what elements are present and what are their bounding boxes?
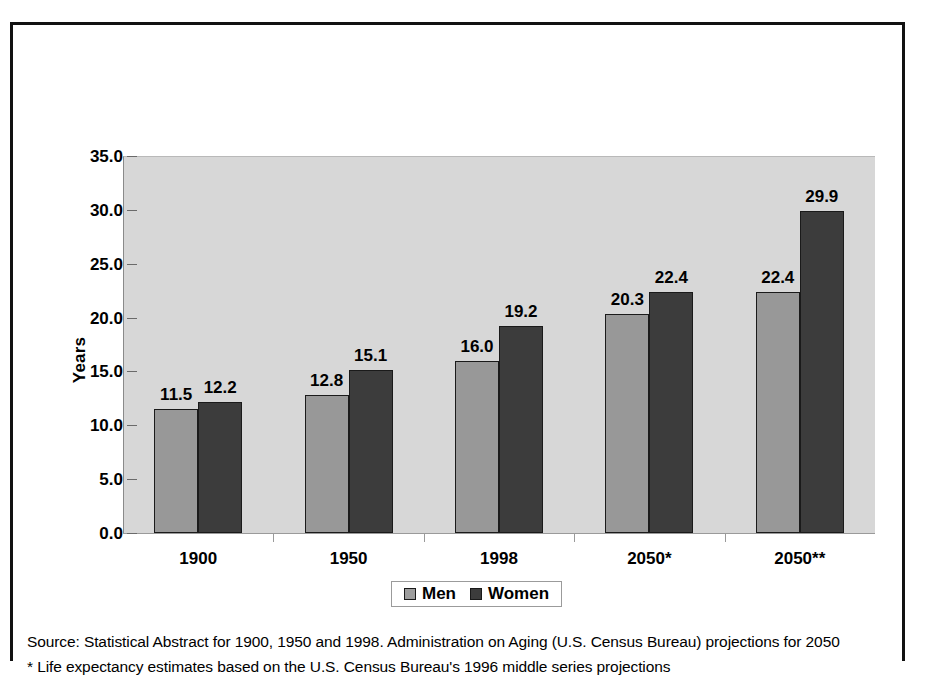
x-axis-label: 2050* — [574, 549, 724, 569]
bar-value-label: 22.4 — [643, 269, 699, 286]
chart-legend: Men Women — [391, 581, 562, 607]
y-tick-mark — [127, 533, 137, 534]
x-tick-mark — [424, 533, 425, 542]
bar-value-label: 19.2 — [493, 303, 549, 320]
bar-group: 11.512.2 — [123, 156, 273, 533]
bar-men-2050star — [605, 314, 649, 533]
x-axis-label: 2050** — [725, 549, 875, 569]
y-tick-label: 35.0 — [45, 148, 123, 165]
legend-item-men: Men — [404, 585, 456, 602]
y-tick-label: 25.0 — [45, 255, 123, 272]
bar-value-label: 16.0 — [449, 338, 505, 355]
x-tick-mark — [273, 533, 274, 542]
bar-women-2050starstar — [800, 211, 844, 533]
bar-men-2050starstar — [756, 292, 800, 533]
x-axis-labels: 1900195019982050*2050** — [123, 549, 875, 575]
bar-men-1998 — [455, 361, 499, 533]
footnote-source: Source: Statistical Abstract for 1900, 1… — [27, 629, 907, 654]
bar-chart: Years 0.05.010.015.020.025.030.035.0 11.… — [13, 25, 908, 603]
bar-value-label: 15.1 — [343, 347, 399, 364]
x-axis-line — [123, 533, 875, 534]
footnote-star: * Life expectancy estimates based on the… — [27, 654, 907, 679]
bar-men-1900 — [154, 409, 198, 533]
bars-layer: 11.512.212.815.116.019.220.322.422.429.9 — [123, 156, 875, 533]
y-tick-label: 15.0 — [45, 363, 123, 380]
bar-women-1900 — [198, 402, 242, 533]
bar-group: 12.815.1 — [273, 156, 423, 533]
bar-value-label: 29.9 — [794, 188, 850, 205]
bar-value-label: 20.3 — [599, 291, 655, 308]
x-tick-mark — [574, 533, 575, 542]
bar-value-label: 12.8 — [299, 372, 355, 389]
footnotes: Source: Statistical Abstract for 1900, 1… — [27, 629, 907, 679]
x-axis-label: 1950 — [273, 549, 423, 569]
legend-label-women: Women — [488, 585, 549, 602]
y-tick-label: 30.0 — [45, 201, 123, 218]
legend-swatch-men-icon — [404, 588, 416, 600]
legend-swatch-women-icon — [470, 588, 482, 600]
bar-women-1998 — [499, 326, 543, 533]
bar-value-label: 12.2 — [192, 379, 248, 396]
y-tick-label: 5.0 — [45, 471, 123, 488]
y-tick-label: 10.0 — [45, 417, 123, 434]
bar-group: 22.429.9 — [725, 156, 875, 533]
y-tick-label: 0.0 — [45, 525, 123, 542]
x-axis-label: 1900 — [123, 549, 273, 569]
bar-group: 16.019.2 — [424, 156, 574, 533]
bar-men-1950 — [305, 395, 349, 533]
legend-label-men: Men — [422, 585, 456, 602]
legend-item-women: Women — [470, 585, 549, 602]
x-axis-label: 1998 — [424, 549, 574, 569]
bar-women-1950 — [349, 370, 393, 533]
bar-women-2050star — [649, 292, 693, 533]
figure-frame: Years 0.05.010.015.020.025.030.035.0 11.… — [10, 22, 905, 661]
bar-group: 20.322.4 — [574, 156, 724, 533]
x-tick-mark — [725, 533, 726, 542]
y-tick-label: 20.0 — [45, 309, 123, 326]
y-axis-ticks: 0.05.010.015.020.025.030.035.0 — [35, 25, 123, 603]
bar-value-label: 22.4 — [750, 269, 806, 286]
